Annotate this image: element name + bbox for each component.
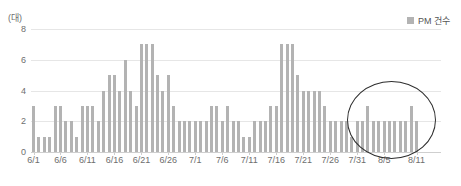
bar [366,106,369,152]
x-tick-label-7-26: 7/26 [321,154,339,166]
bar [205,121,208,152]
x-axis-baseline [31,152,441,153]
bar [178,121,181,152]
x-tick-label-8-5: 8/5 [378,154,391,166]
bar [91,106,94,152]
bar [140,44,143,152]
bar [313,91,316,153]
bar [48,137,51,152]
bar [113,75,116,152]
bar [237,121,240,152]
bar [291,44,294,152]
bar [296,75,299,152]
bar [167,75,170,152]
x-tick-mark [276,152,277,155]
x-tick-mark [249,152,250,155]
bar [410,106,413,152]
bar [415,121,418,152]
bar [248,137,251,152]
bar [156,75,159,152]
bar [199,121,202,152]
y-tick-label-6: 6 [0,56,26,65]
bar [108,75,111,152]
bar [307,91,310,153]
bar [269,106,272,152]
x-tick-label-6-16: 6/16 [106,154,124,166]
bar [399,121,402,152]
bar [118,91,121,153]
x-tick-mark [60,152,61,155]
bar [302,91,305,153]
bar [183,121,186,152]
bar [318,91,321,153]
bar [377,121,380,152]
bar [64,121,67,152]
x-tick-mark [222,152,223,155]
y-axis-unit-label: (대) [8,11,22,24]
x-tick-mark [417,152,418,155]
bar [345,121,348,152]
x-tick-label-6-11: 6/11 [79,154,96,166]
bar [275,106,278,152]
bar [242,137,245,152]
bar [59,106,62,152]
x-tick-mark [87,152,88,155]
bar [188,121,191,152]
bar [75,137,78,152]
x-tick-label-6-26: 6/26 [160,154,178,166]
x-tick-mark [114,152,115,155]
bar [393,121,396,152]
x-tick-mark [384,152,385,155]
x-tick-label-7-1: 7/1 [189,154,202,166]
bar [356,121,359,152]
bar [43,137,46,152]
bar [151,44,154,152]
bar [334,121,337,152]
bar [361,121,364,152]
x-tick-label-7-6: 7/6 [216,154,229,166]
x-tick-label-7-16: 7/16 [267,154,285,166]
x-axis-labels: 6/16/66/116/166/216/267/17/67/117/167/21… [0,154,461,170]
bar [97,121,100,152]
bar [86,106,89,152]
bar [340,121,343,152]
bar [329,121,332,152]
x-tick-label-6-21: 6/21 [133,154,151,166]
bar [194,121,197,152]
bar [253,121,256,152]
bar [323,106,326,152]
x-tick-mark [330,152,331,155]
bar [124,60,127,152]
bar [404,121,407,152]
y-tick-label-8: 8 [0,25,26,34]
bar [215,106,218,152]
legend-swatch-icon [407,17,414,24]
x-tick-label-7-11: 7/11 [241,154,258,166]
bar [129,91,132,153]
bar [161,91,164,153]
x-tick-label-7-31: 7/31 [348,154,366,166]
bar [264,121,267,152]
bar [226,106,229,152]
bar [280,44,283,152]
bar [70,121,73,152]
x-tick-label-7-21: 7/21 [294,154,312,166]
x-tick-mark [195,152,196,155]
bar [286,44,289,152]
bar [372,121,375,152]
x-tick-label-6-1: 6/1 [27,154,40,166]
x-tick-label-8-11: 8/11 [408,154,425,166]
bar [221,121,224,152]
bar [172,106,175,152]
bar-series-pm-count [31,29,441,152]
legend-label-pm-count: PM 건수 [418,14,450,27]
bar [350,137,353,152]
y-tick-label-2: 2 [0,117,26,126]
x-tick-mark [141,152,142,155]
bar [54,106,57,152]
bar [388,121,391,152]
x-tick-mark [168,152,169,155]
x-tick-mark [34,152,35,155]
x-tick-label-6-6: 6/6 [54,154,67,166]
bar [135,106,138,152]
